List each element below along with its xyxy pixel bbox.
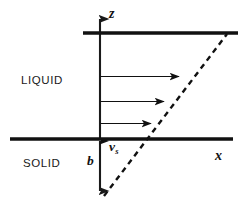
- slip-length-label: b: [87, 153, 94, 169]
- slip-velocity-subscript: s: [115, 146, 118, 156]
- slip-velocity-label: vs: [109, 139, 118, 155]
- slip-length-diagram: LIQUID SOLID z x b vs: [0, 0, 243, 203]
- x-axis-label: x: [215, 148, 222, 164]
- liquid-region-label: LIQUID: [21, 74, 63, 86]
- diagram-canvas: [0, 0, 243, 203]
- solid-region-label: SOLID: [23, 157, 61, 169]
- z-axis-label: z: [109, 6, 114, 22]
- velocity-profile-dashed-line: [104, 34, 227, 196]
